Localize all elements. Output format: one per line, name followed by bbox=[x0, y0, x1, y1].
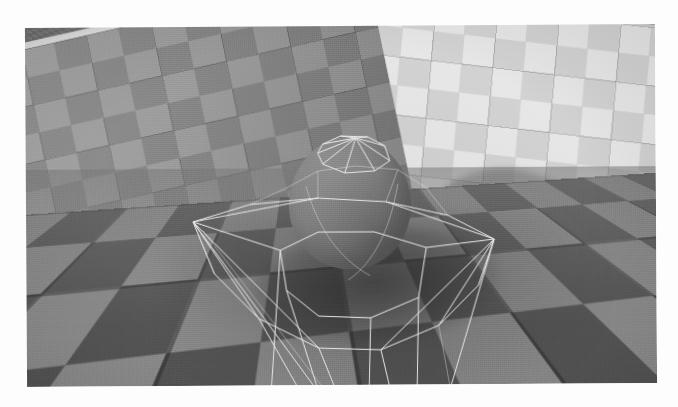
figure-caption bbox=[0, 0, 1, 1]
figure-alt-text: Wireframe-caged sphere on a checkerboard… bbox=[0, 0, 1, 1]
figure-page: Wireframe-caged sphere on a checkerboard… bbox=[0, 0, 678, 407]
render-viewport bbox=[25, 24, 657, 387]
render-canvas bbox=[25, 24, 657, 387]
sphere bbox=[289, 137, 412, 270]
